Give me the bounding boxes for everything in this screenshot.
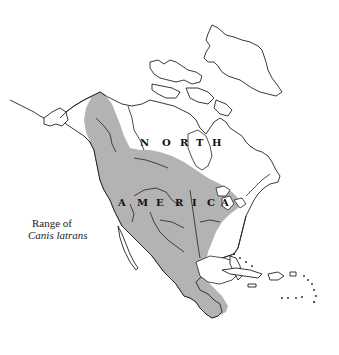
label-letter-h: H	[212, 137, 221, 148]
label-letter-o: O	[162, 137, 171, 148]
alaska	[44, 108, 68, 126]
legend-line-1: Range of	[32, 217, 88, 229]
puerto-rico	[290, 272, 296, 276]
greenland	[204, 25, 282, 96]
north-america-map	[0, 0, 339, 355]
hispaniola	[268, 272, 284, 280]
label-letter-n: N	[140, 137, 149, 148]
label-letter-m: M	[137, 197, 148, 208]
jamaica	[248, 284, 256, 287]
label-letter-e: E	[156, 197, 164, 208]
label-letter-r2: R	[175, 197, 183, 208]
label-letter-i: I	[192, 197, 197, 208]
map-legend: Range of Canis latrans	[32, 217, 88, 241]
label-letter-a1: A	[118, 197, 126, 208]
legend-species-name: Canis latrans	[28, 229, 88, 241]
arctic-islands	[150, 60, 202, 84]
label-letter-r: R	[180, 137, 188, 148]
label-letter-t: T	[196, 137, 203, 148]
label-letter-c: C	[207, 197, 215, 208]
label-letter-a2: A	[221, 197, 229, 208]
